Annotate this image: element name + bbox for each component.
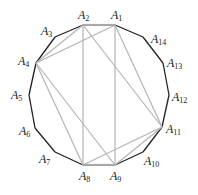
polygon-edge-A2-A3 xyxy=(55,25,83,37)
chords xyxy=(36,25,162,165)
vertex-label-A13: A13 xyxy=(166,56,182,71)
vertex-label-A14: A14 xyxy=(150,32,166,47)
vertex-label-A12: A12 xyxy=(171,90,187,105)
vertex-label-A5: A5 xyxy=(10,88,22,103)
vertex-label-A2: A2 xyxy=(77,8,89,23)
vertex-label-A11: A11 xyxy=(165,122,181,137)
polygon-diagram: A1A2A3A4A5A6A7A8A9A10A11A12A13A14 xyxy=(0,0,198,195)
vertex-label-A3: A3 xyxy=(40,24,52,39)
vertex-label-A1: A1 xyxy=(110,8,122,23)
vertex-label-A8: A8 xyxy=(78,169,90,184)
polygon-edge-A5-A6 xyxy=(29,95,35,128)
vertex-label-A7: A7 xyxy=(38,152,50,167)
polygon-edge-A7-A8 xyxy=(55,152,83,165)
polygon-edge-A6-A7 xyxy=(35,128,55,152)
vertex-label-A6: A6 xyxy=(18,124,30,139)
vertex-label-A10: A10 xyxy=(143,154,159,169)
vertex-label-A4: A4 xyxy=(17,54,29,69)
vertex-label-A9: A9 xyxy=(109,169,121,184)
polygon-edge-A4-A5 xyxy=(29,63,36,95)
